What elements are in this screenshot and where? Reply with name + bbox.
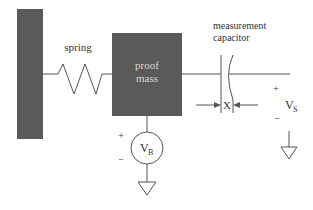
gap-label: X (223, 99, 231, 111)
capacitor-label-1: measurement (213, 20, 267, 31)
vs-plus: + (273, 83, 279, 94)
diagram-canvas: spring proof mass measurement capacitor … (0, 0, 313, 210)
fixed-wall (17, 9, 43, 139)
vb-subscript: B (148, 148, 153, 157)
capacitor-label-2: capacitor (213, 32, 250, 43)
proof-mass-label-1: proof (135, 59, 159, 71)
capacitor-curved-plate (229, 55, 234, 100)
ground-icon-vs (281, 147, 297, 159)
gap-arrowhead-right (233, 102, 240, 108)
spring (43, 64, 112, 94)
vb-minus: − (118, 154, 124, 165)
ground-icon-vb (138, 182, 156, 195)
vs-subscript: S (293, 105, 297, 114)
vb-plus: + (118, 130, 124, 141)
gap-arrowhead-left (214, 102, 221, 108)
proof-mass-label-2: mass (136, 72, 158, 84)
vs-minus: − (274, 113, 280, 124)
spring-label: spring (64, 41, 92, 53)
